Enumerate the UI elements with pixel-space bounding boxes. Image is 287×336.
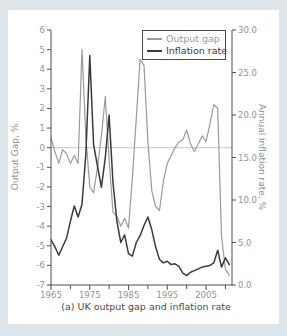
right-axis-tick-label: 25.0 bbox=[238, 68, 257, 78]
left-axis-tick-label: -3 bbox=[37, 202, 45, 212]
left-axis-tick-label: -1 bbox=[37, 162, 45, 172]
inflation-rate-line-swatch bbox=[147, 50, 162, 52]
left-axis-tick-label: -7 bbox=[37, 280, 45, 290]
chart-legend: Output gap Inflation rate bbox=[142, 30, 226, 60]
inflation-rate-line bbox=[51, 56, 229, 276]
output-gap-line bbox=[51, 50, 229, 276]
x-axis-tick-label: 1995 bbox=[156, 290, 178, 300]
output-gap-line-swatch bbox=[147, 38, 162, 40]
right-axis-tick-label: 30.0 bbox=[238, 25, 257, 35]
legend-label-output-gap: Output gap bbox=[166, 33, 220, 44]
legend-item-output-gap: Output gap bbox=[147, 33, 221, 44]
left-axis-title: Output Gap, % bbox=[10, 124, 20, 191]
legend-label-inflation-rate: Inflation rate bbox=[166, 45, 227, 56]
right-axis-title: Annual inflation rate, % bbox=[257, 104, 267, 210]
left-axis-tick-label: 2 bbox=[40, 103, 45, 113]
legend-item-inflation-rate: Inflation rate bbox=[147, 45, 221, 56]
left-axis-tick-label: 1 bbox=[40, 123, 45, 133]
right-axis-tick-label: 15.0 bbox=[238, 153, 257, 163]
left-axis-tick-label: 3 bbox=[40, 84, 45, 94]
figure-page: 6543210-1-2-3-4-5-6-730.025.020.015.010.… bbox=[0, 0, 287, 336]
left-axis-tick-label: -4 bbox=[37, 221, 45, 231]
left-axis-tick-label: -6 bbox=[37, 260, 45, 270]
left-axis-tick-label: 4 bbox=[40, 64, 45, 74]
x-axis-tick-label: 2005 bbox=[195, 290, 217, 300]
left-axis-tick-label: 0 bbox=[40, 143, 45, 153]
left-axis-tick-label: -2 bbox=[37, 182, 45, 192]
left-axis-tick-label: 5 bbox=[40, 45, 45, 55]
left-axis-tick-label: -5 bbox=[37, 241, 45, 251]
x-axis-tick-label: 1985 bbox=[118, 290, 140, 300]
right-axis-tick-label: 20.0 bbox=[238, 110, 257, 120]
figure-caption: (a) UK output gap and inflation rate bbox=[61, 301, 231, 312]
right-axis-tick-label: 10.0 bbox=[238, 195, 257, 205]
x-axis-tick-label: 1975 bbox=[79, 290, 101, 300]
left-axis-tick-label: 6 bbox=[40, 25, 45, 35]
right-axis-tick-label: 0.0 bbox=[238, 280, 252, 290]
right-axis-tick-label: 5.0 bbox=[238, 238, 252, 248]
x-axis-tick-label: 1965 bbox=[40, 290, 62, 300]
